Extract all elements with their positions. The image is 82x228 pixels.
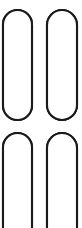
column-bottom-left <box>3 133 33 228</box>
column-top-left <box>3 10 33 120</box>
column-bottom-left-outline-overlay <box>3 133 32 228</box>
column-bottom-right-outline-overlay <box>47 133 77 228</box>
column-top-left-outline-overlay <box>3 10 32 120</box>
column-top-right-outline-overlay <box>47 10 77 120</box>
capsule-diagram <box>0 0 82 228</box>
column-top-right <box>47 10 78 120</box>
column-bottom-right <box>47 133 78 228</box>
figure-canvas <box>0 0 82 228</box>
